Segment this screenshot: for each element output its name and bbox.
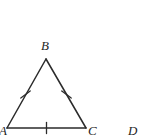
point-label-d: D — [128, 124, 137, 137]
triangle-diagram-svg — [0, 0, 147, 139]
tick-mark-side-ab — [21, 91, 30, 98]
tick-mark-side-bc — [62, 91, 71, 98]
triangle-abc — [7, 59, 86, 128]
vertex-label-c: C — [88, 124, 97, 137]
vertex-label-a: A — [0, 124, 7, 137]
congruence-tick-marks — [21, 91, 71, 134]
vertex-label-b: B — [41, 39, 49, 52]
geometry-figure-canvas: B A C D — [0, 0, 147, 139]
